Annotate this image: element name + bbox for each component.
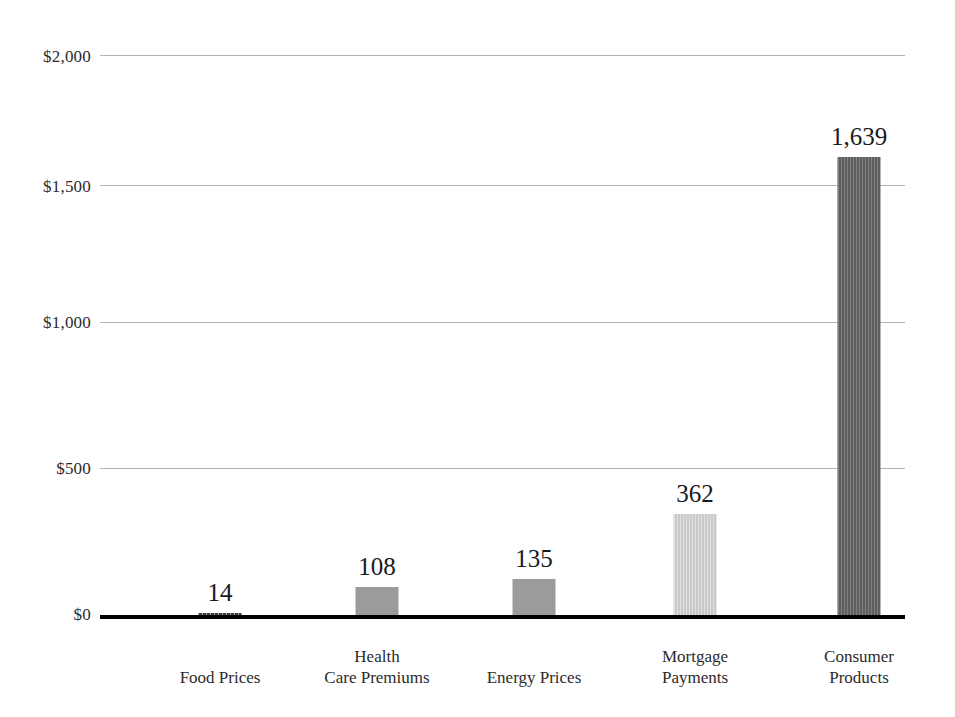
x-axis-label-line: Mortgage (615, 646, 775, 668)
bar-value-health-care-premiums: 108 (358, 554, 396, 579)
x-axis-baseline (100, 615, 905, 619)
bar-consumer-products (838, 157, 881, 617)
x-axis-label-line: Care Premiums (297, 667, 457, 689)
bar-energy-prices (513, 579, 556, 617)
bar-group-food-prices: 14 Food Prices (140, 0, 300, 717)
bar-value-mortgage-payments: 362 (676, 481, 714, 506)
x-axis-label-mortgage-payments: Mortgage Payments (615, 646, 775, 690)
bar-chart: $2,000 $1,500 $1,000 $500 $0 14 Food Pri… (0, 0, 955, 717)
bar-value-energy-prices: 135 (515, 546, 553, 571)
x-axis-label-line: Food Prices (140, 667, 300, 689)
bars-layer: 14 Food Prices 108 Health Care Premiums … (0, 0, 955, 717)
x-axis-label-line: Payments (615, 667, 775, 689)
x-axis-label-line: Energy Prices (454, 667, 614, 689)
bar-health-care-premiums (356, 587, 399, 617)
bar-mortgage-payments (674, 514, 717, 617)
x-axis-label-food-prices: Food Prices (140, 667, 300, 689)
bar-value-consumer-products: 1,639 (831, 124, 887, 149)
x-axis-label-line: Products (779, 667, 939, 689)
bar-group-mortgage-payments: 362 Mortgage Payments (615, 0, 775, 717)
bar-group-consumer-products: 1,639 Consumer Products (779, 0, 939, 717)
x-axis-label-energy-prices: Energy Prices (454, 667, 614, 689)
x-axis-label-line: Health (297, 646, 457, 668)
bar-value-food-prices: 14 (208, 580, 233, 605)
bar-group-health-care-premiums: 108 Health Care Premiums (297, 0, 457, 717)
x-axis-label-line: Consumer (779, 646, 939, 668)
x-axis-label-health-care-premiums: Health Care Premiums (297, 646, 457, 690)
x-axis-label-consumer-products: Consumer Products (779, 646, 939, 690)
bar-group-energy-prices: 135 Energy Prices (454, 0, 614, 717)
